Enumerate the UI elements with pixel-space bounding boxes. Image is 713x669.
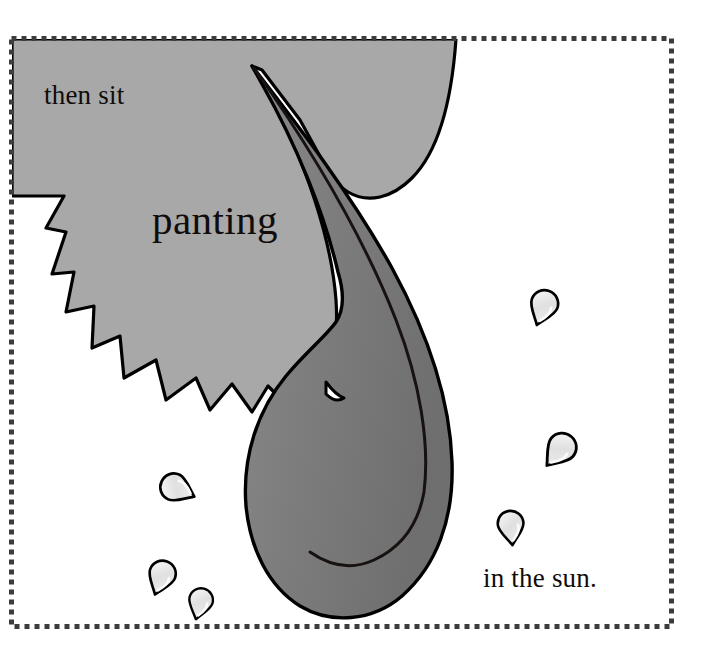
caption-then-sit: then sit [44,82,124,109]
artwork-group [12,39,671,626]
illustration-page: then sit panting in the sun. [0,0,713,669]
caption-panting: panting [152,200,278,241]
caption-in-the-sun: in the sun. [483,565,597,592]
